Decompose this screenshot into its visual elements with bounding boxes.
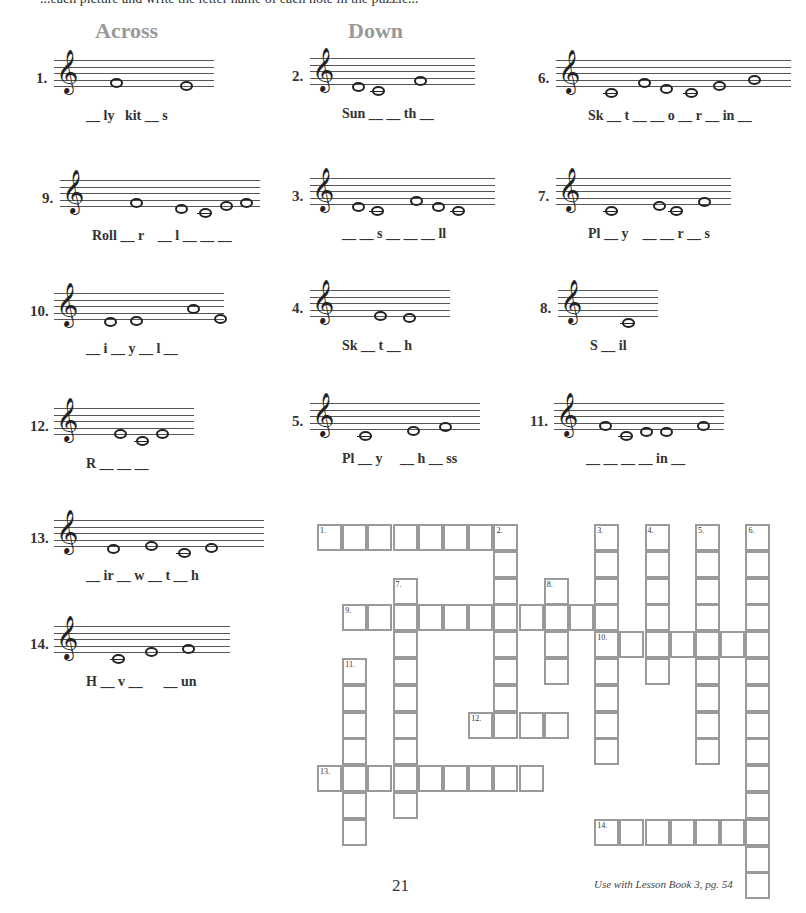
crossword-cell[interactable] [393,712,418,739]
crossword-cell[interactable] [493,578,518,605]
crossword-cell[interactable] [544,712,569,739]
crossword-cell[interactable] [670,631,695,658]
crossword-cell[interactable] [493,765,518,792]
crossword-cell[interactable] [594,738,619,765]
crossword-cell[interactable] [745,685,770,712]
crossword-cell[interactable] [695,578,720,605]
crossword-cell[interactable]: 6. [745,524,770,551]
crossword-cell[interactable] [594,712,619,739]
crossword-cell[interactable]: 7. [393,578,418,605]
crossword-cell[interactable]: 10. [594,631,619,658]
crossword-cell[interactable] [645,819,670,846]
crossword-cell[interactable] [393,658,418,685]
crossword-cell[interactable]: 5. [695,524,720,551]
crossword-cell[interactable] [645,631,670,658]
crossword-cell[interactable] [745,819,770,846]
crossword-cell[interactable] [645,578,670,605]
crossword-cell[interactable] [493,712,518,739]
crossword-cell[interactable]: 4. [645,524,670,551]
crossword-cell[interactable] [745,792,770,819]
crossword-cell[interactable] [519,604,544,631]
crossword-cell[interactable]: 8. [544,578,569,605]
crossword-cell[interactable] [544,631,569,658]
crossword-cell[interactable] [745,631,770,658]
crossword-cell[interactable] [695,738,720,765]
crossword-cell[interactable] [670,819,695,846]
crossword-cell[interactable] [745,604,770,631]
crossword-cell[interactable] [720,631,745,658]
crossword-cell[interactable] [544,658,569,685]
crossword-cell[interactable] [468,524,493,551]
crossword-cell[interactable] [544,604,569,631]
crossword-cell[interactable] [695,685,720,712]
crossword-cell[interactable] [342,819,367,846]
crossword-cell[interactable] [342,765,367,792]
crossword-cell[interactable] [519,712,544,739]
crossword-cell[interactable] [342,792,367,819]
crossword-cell[interactable] [443,604,468,631]
crossword-cell[interactable] [418,524,443,551]
crossword-cell[interactable] [745,738,770,765]
crossword-cell[interactable]: 11. [342,658,367,685]
crossword-cell[interactable] [367,604,392,631]
crossword-cell[interactable]: 1. [317,524,342,551]
crossword-cell[interactable] [443,524,468,551]
crossword-cell[interactable] [745,712,770,739]
crossword-cell[interactable] [695,712,720,739]
crossword-cell[interactable] [745,658,770,685]
crossword-cell[interactable] [594,604,619,631]
crossword-cell[interactable] [695,551,720,578]
crossword-cell[interactable] [468,604,493,631]
crossword-cell[interactable] [493,685,518,712]
crossword-cell[interactable] [519,765,544,792]
crossword-cell[interactable] [418,604,443,631]
crossword-cell[interactable] [594,551,619,578]
crossword-cell[interactable]: 12. [468,712,493,739]
crossword-cell[interactable] [342,738,367,765]
crossword-cell[interactable] [619,819,644,846]
crossword-cell[interactable] [393,792,418,819]
crossword-cell[interactable] [745,872,770,899]
crossword-cell[interactable]: 9. [342,604,367,631]
crossword-cell[interactable] [594,658,619,685]
crossword-cell[interactable] [695,604,720,631]
crossword-cell[interactable] [745,765,770,792]
crossword-cell[interactable] [619,631,644,658]
crossword-cell[interactable] [443,765,468,792]
crossword-cell[interactable] [695,658,720,685]
crossword-cell[interactable] [393,604,418,631]
crossword-cell[interactable] [594,685,619,712]
crossword-cell[interactable] [569,604,594,631]
crossword-cell[interactable] [645,604,670,631]
crossword-cell[interactable] [468,765,493,792]
crossword-cell[interactable] [645,658,670,685]
crossword-cell[interactable] [393,524,418,551]
crossword-cell[interactable]: 14. [594,819,619,846]
crossword-cell[interactable]: 2. [493,524,518,551]
crossword-cell[interactable] [594,578,619,605]
crossword-cell[interactable] [695,819,720,846]
crossword-cell[interactable]: 13. [317,765,342,792]
crossword-cell[interactable] [493,551,518,578]
crossword-cell[interactable] [342,685,367,712]
crossword-cell[interactable] [645,551,670,578]
crossword-cell[interactable] [745,551,770,578]
crossword-cell[interactable] [695,631,720,658]
crossword-cell[interactable] [342,524,367,551]
crossword-cell[interactable] [745,578,770,605]
crossword-cell[interactable] [367,765,392,792]
crossword-cell[interactable] [367,524,392,551]
crossword-cell[interactable] [393,631,418,658]
crossword-cell[interactable] [342,712,367,739]
whole-note-icon [698,197,711,207]
crossword-cell[interactable] [720,819,745,846]
crossword-cell[interactable] [393,765,418,792]
crossword-cell[interactable] [393,685,418,712]
crossword-cell[interactable]: 3. [594,524,619,551]
crossword-cell[interactable] [393,738,418,765]
crossword-cell[interactable] [493,604,518,631]
crossword-cell[interactable] [745,846,770,873]
crossword-cell[interactable] [493,658,518,685]
crossword-cell[interactable] [418,765,443,792]
crossword-cell[interactable] [493,631,518,658]
